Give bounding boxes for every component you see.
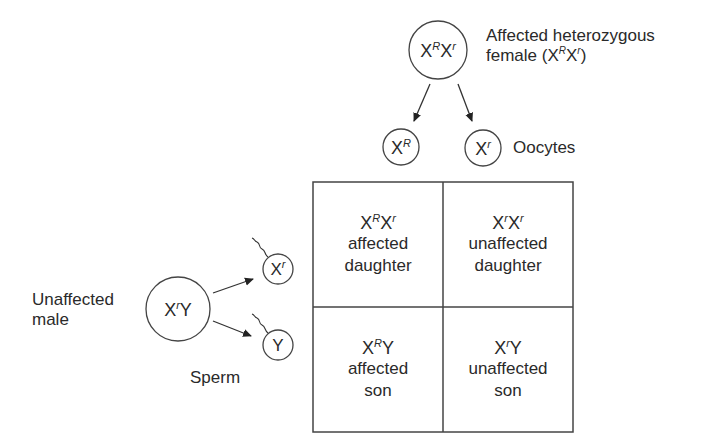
cell-geno-base1: X	[494, 338, 506, 358]
male-label-line2: male	[32, 310, 114, 330]
sperm-Y-base: Y	[272, 336, 283, 355]
punnett-cell-unaffected-daughter: XrXr unaffected daughter	[443, 182, 573, 307]
cell-geno-base1: X	[492, 213, 504, 233]
cell-geno-sup1: R	[374, 337, 382, 349]
female-label-suffix: )	[581, 46, 587, 65]
sperm-tail-X	[252, 238, 268, 257]
sperm-tail-Y	[252, 314, 268, 333]
cell-phenotype: unaffected	[468, 233, 547, 255]
female-label-geno-sup1: R	[559, 45, 566, 56]
female-geno-sup2: r	[452, 40, 456, 52]
female-label-line1: Affected heterozygous	[486, 26, 655, 46]
cell-genotype: XrY	[494, 338, 522, 358]
cell-phenotype: affected	[348, 358, 408, 380]
oocyte-R: XR	[391, 138, 411, 158]
oocyte-r-base: X	[475, 139, 487, 159]
cell-geno-base2: X	[508, 213, 520, 233]
cell-geno-sup1: R	[372, 212, 380, 224]
punnett-cell-unaffected-son: XrY unaffected son	[443, 307, 573, 432]
cell-geno-sup2: r	[520, 212, 524, 224]
sperm-X-sup: r	[282, 258, 286, 270]
female-geno-base2: X	[440, 41, 452, 61]
cell-sex: son	[364, 380, 391, 402]
cell-geno-base2: Y	[382, 338, 394, 358]
oocytes-label: Oocytes	[513, 138, 575, 158]
oocyte-R-sup: R	[403, 137, 411, 149]
female-label-geno-base1: X	[547, 46, 558, 65]
cell-genotype: XRY	[362, 338, 394, 358]
punnett-cell-affected-son: XRY affected son	[313, 307, 443, 432]
female-label-prefix: female (	[486, 46, 547, 65]
female-genotype: XRXr	[420, 41, 456, 61]
arrow-male-to-sperm-Y	[213, 321, 251, 336]
male-geno-base1: X	[164, 300, 176, 320]
male-label-line1: Unaffected	[32, 290, 114, 310]
cell-genotype: XRXr	[360, 213, 396, 233]
oocyte-R-base: X	[391, 138, 403, 158]
sperm-Y: Y	[272, 336, 283, 356]
arrow-female-to-oocyte-r	[458, 84, 472, 121]
male-geno-base2: Y	[180, 300, 192, 320]
arrow-male-to-sperm-X	[213, 279, 253, 293]
cell-geno-base2: X	[380, 213, 392, 233]
female-geno-sup1: R	[432, 40, 440, 52]
sperm-label: Sperm	[190, 368, 240, 388]
cell-geno-sup2: r	[392, 212, 396, 224]
oocyte-r-sup: r	[487, 138, 491, 150]
sperm-X: Xr	[270, 260, 285, 280]
cell-geno-base1: X	[360, 213, 372, 233]
punnett-cell-affected-daughter: XRXr affected daughter	[313, 182, 443, 307]
oocyte-r: Xr	[475, 139, 491, 159]
cell-sex: daughter	[344, 255, 411, 277]
cell-sex: son	[494, 380, 521, 402]
cell-geno-base1: X	[362, 338, 374, 358]
male-genotype: XrY	[164, 300, 192, 320]
female-label-geno-base2: X	[566, 46, 577, 65]
cell-sex: daughter	[474, 255, 541, 277]
female-label-line2: female (XRXr)	[486, 46, 655, 66]
arrow-female-to-oocyte-R	[414, 84, 430, 121]
cell-phenotype: unaffected	[468, 358, 547, 380]
cell-geno-base2: Y	[510, 338, 522, 358]
cell-phenotype: affected	[348, 233, 408, 255]
male-label: Unaffected male	[32, 290, 114, 330]
female-geno-base1: X	[420, 41, 432, 61]
sperm-X-base: X	[270, 260, 281, 279]
cell-genotype: XrXr	[492, 213, 523, 233]
female-label: Affected heterozygous female (XRXr)	[486, 26, 655, 66]
